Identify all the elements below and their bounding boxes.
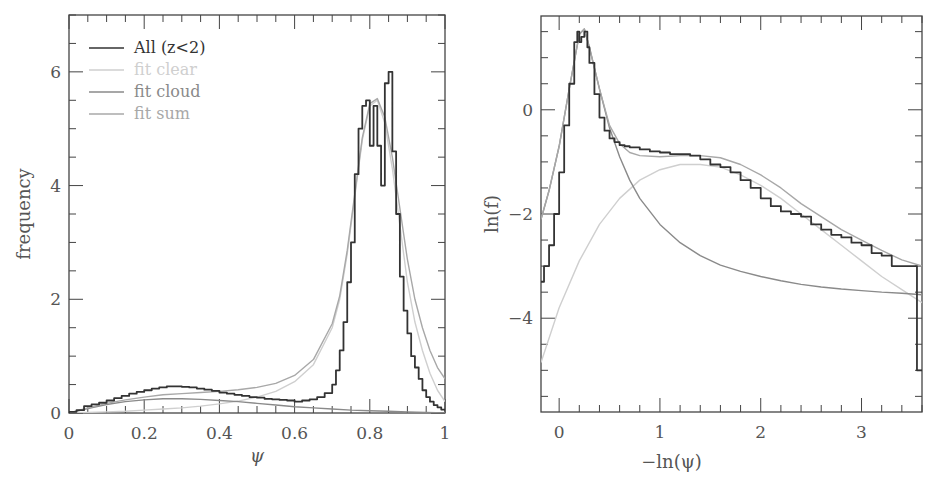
x-tick-label: 0.8 xyxy=(356,423,383,443)
x-tick-label: 3 xyxy=(856,422,867,442)
legend-label: fit cloud xyxy=(134,82,200,101)
y-tick-label: −4 xyxy=(508,308,533,328)
legend: All (z<2)fit clearfit cloudfit sum xyxy=(89,38,205,123)
x-tick-label: 1 xyxy=(655,422,666,442)
series-fit-clear xyxy=(69,100,445,413)
plot-frame xyxy=(541,16,922,412)
legend-label: fit clear xyxy=(134,60,197,79)
right-panel: 01230−2−4−ln(ψ)ln(f) xyxy=(481,16,922,472)
y-tick-label: −2 xyxy=(508,204,533,224)
y-axis-label: ln(f) xyxy=(481,195,502,233)
legend-item: fit sum xyxy=(89,104,190,123)
y-tick-label: 2 xyxy=(50,289,61,309)
series-all-z-2 xyxy=(69,72,445,413)
series-fit-clear xyxy=(541,165,922,363)
x-tick-label: 2 xyxy=(755,422,766,442)
x-tick-label: 0.2 xyxy=(131,423,158,443)
legend-item: All (z<2) xyxy=(89,38,205,57)
legend-label: All (z<2) xyxy=(133,38,205,57)
series-fit-sum xyxy=(541,29,922,266)
x-tick-label: 0 xyxy=(554,422,565,442)
y-tick-label: 6 xyxy=(50,62,61,82)
legend-item: fit cloud xyxy=(89,82,200,101)
x-tick-label: 0 xyxy=(64,423,75,443)
y-tick-label: 4 xyxy=(50,176,61,196)
figure: 00.20.40.60.810246ψfrequencyAll (z<2)fit… xyxy=(0,0,939,488)
legend-item: fit clear xyxy=(89,60,197,79)
plot-area xyxy=(69,72,445,413)
plot-area xyxy=(541,29,922,370)
x-axis-label: ψ xyxy=(250,445,265,466)
left-panel: 00.20.40.60.810246ψfrequencyAll (z<2)fit… xyxy=(13,15,450,466)
y-tick-label: 0 xyxy=(522,100,533,120)
x-tick-label: 0.6 xyxy=(281,423,308,443)
x-tick-label: 0.4 xyxy=(206,423,233,443)
legend-label: fit sum xyxy=(134,104,190,123)
y-tick-label: 0 xyxy=(50,403,61,423)
x-axis-label: −ln(ψ) xyxy=(641,451,702,472)
y-axis-label: frequency xyxy=(13,167,34,259)
x-tick-label: 1 xyxy=(440,423,451,443)
